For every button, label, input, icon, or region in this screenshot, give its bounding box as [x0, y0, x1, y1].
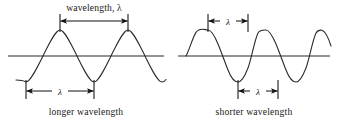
figure-canvas: wavelength, λ λ longer wavelength	[0, 0, 340, 122]
label-lambda-bottom-right: λ	[255, 87, 260, 97]
dimension-bottom-right: λ	[238, 80, 278, 99]
caption-shorter-wavelength: shorter wavelength	[216, 106, 293, 117]
label-lambda-top-right: λ	[225, 17, 230, 27]
label-lambda-bottom-left: λ	[57, 87, 62, 97]
dimension-top-left	[60, 14, 128, 32]
panel-longer-wavelength: wavelength, λ λ longer wavelength	[8, 2, 166, 117]
caption-longer-wavelength: longer wavelength	[49, 106, 124, 117]
dimension-top-right: λ	[208, 14, 248, 32]
wavelength-comparison-figure: wavelength, λ λ longer wavelength	[0, 0, 340, 122]
label-wavelength-lambda: wavelength, λ	[66, 2, 122, 13]
panel-shorter-wavelength: λ λ shorter wavelength	[178, 14, 331, 117]
dimension-bottom-left: λ	[26, 80, 94, 99]
